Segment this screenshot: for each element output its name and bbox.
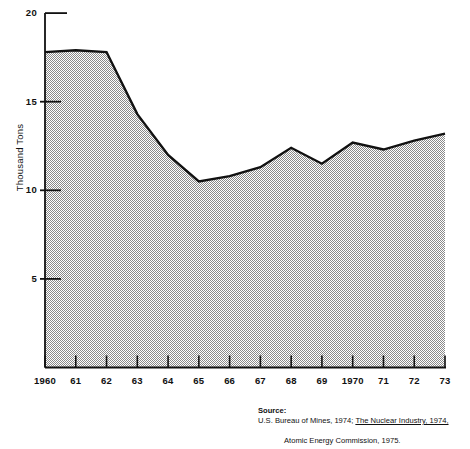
x-tick-label-1969: 69 — [316, 375, 327, 386]
source-text-1: U.S. Bureau of Mines, 1974; — [258, 416, 355, 425]
x-tick-label-1972: 72 — [409, 375, 420, 386]
y-tick-label-10: 10 — [11, 184, 37, 195]
x-tick-label-1968: 68 — [286, 375, 297, 386]
x-tick-label-1960: 1960 — [34, 375, 56, 386]
source-line-1: Source: U.S. Bureau of Mines, 1974; The … — [258, 396, 449, 426]
source-line-2: Atomic Energy Commission, 1975. — [258, 436, 449, 446]
source-title: The Nuclear Industry, 1974, — [355, 416, 448, 425]
area-fill — [45, 50, 445, 367]
x-tick-label-1970: 1970 — [342, 375, 364, 386]
x-tick-label-1973: 73 — [440, 375, 451, 386]
y-tick-label-20: 20 — [11, 7, 37, 18]
y-tick-label-15: 15 — [11, 96, 37, 107]
source-prefix: Source: — [258, 406, 286, 415]
x-tick-label-1964: 64 — [163, 375, 174, 386]
y-tick-label-5: 5 — [11, 273, 37, 284]
x-tick-label-1962: 62 — [101, 375, 112, 386]
x-tick-label-1971: 71 — [378, 375, 389, 386]
x-tick-label-1963: 63 — [132, 375, 143, 386]
x-tick-label-1967: 67 — [255, 375, 266, 386]
source-note: Source: U.S. Bureau of Mines, 1974; The … — [258, 386, 449, 449]
x-tick-label-1966: 66 — [224, 375, 235, 386]
x-tick-label-1961: 61 — [70, 375, 81, 386]
x-tick-label-1965: 65 — [193, 375, 204, 386]
